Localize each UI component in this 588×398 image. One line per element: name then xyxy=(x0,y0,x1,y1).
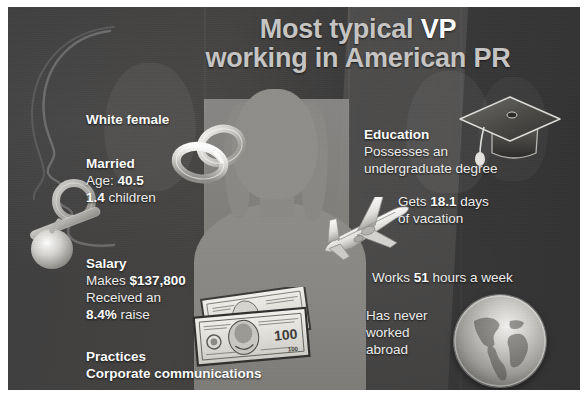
fact-practice-heading: Practices xyxy=(86,348,262,365)
fact-hours-value: 51 xyxy=(414,270,429,285)
fact-abroad-line-1: Has never xyxy=(366,307,428,324)
fact-salary-raise: 8.4% raise xyxy=(86,306,186,323)
wedding-rings-icon xyxy=(168,119,256,191)
fact-practice-area: Corporate communications xyxy=(86,365,262,382)
fact-family-children: 1.4 children xyxy=(86,189,156,206)
fact-vacation-value: 18.1 xyxy=(430,194,456,209)
fact-vacation-line-2: of vacation xyxy=(398,210,489,227)
fact-family-age-label: Age: xyxy=(86,173,118,188)
fact-demographic: White female xyxy=(86,111,169,128)
fact-hours-suffix: hours a week xyxy=(429,270,513,285)
poster-title-prefix: Most typical xyxy=(260,14,421,44)
fact-education-heading: Education xyxy=(364,126,498,143)
fact-family-age: Age: 40.5 xyxy=(86,172,156,189)
globe-continents xyxy=(454,295,546,387)
banknote-denomination: 100 xyxy=(273,326,298,344)
banknote-corner-mark: 100 xyxy=(288,346,299,353)
poster-title-highlight: VP xyxy=(421,14,457,44)
infographic-poster: Most typical VP working in American PR xyxy=(0,0,588,398)
fact-salary-raise-prefix: Received an xyxy=(86,289,186,306)
fact-abroad-line-2: worked xyxy=(366,324,428,341)
fact-hours: Works 51 hours a week xyxy=(372,269,513,286)
poster-title: Most typical VP working in American PR xyxy=(158,15,558,72)
fact-vacation-line-1: Gets 18.1 days xyxy=(398,193,489,210)
fact-family-age-value: 40.5 xyxy=(118,173,144,188)
fact-education: Education Possesses an undergraduate deg… xyxy=(364,126,498,177)
globe-icon xyxy=(454,295,546,387)
fact-hours-line: Works 51 hours a week xyxy=(372,269,513,286)
fact-family-children-value: 1.4 xyxy=(86,190,105,205)
fact-hours-prefix: Works xyxy=(372,270,414,285)
fact-demographic-heading: White female xyxy=(86,111,169,128)
fact-salary-raise-suffix: raise xyxy=(117,307,150,322)
poster-title-line-2: working in American PR xyxy=(158,44,558,73)
fact-education-line-2: undergraduate degree xyxy=(364,160,498,177)
fact-salary-makes-value: $137,800 xyxy=(130,273,186,288)
fact-salary-raise-value: 8.4% xyxy=(86,307,117,322)
fact-salary-makes: Makes $137,800 xyxy=(86,272,186,289)
fact-abroad-line-3: abroad xyxy=(366,341,428,358)
fact-salary: Salary Makes $137,800 Received an 8.4% r… xyxy=(86,255,186,323)
fact-vacation: Gets 18.1 days of vacation xyxy=(398,193,489,227)
fact-family: Married Age: 40.5 1.4 children xyxy=(86,155,156,206)
poster-title-line-1: Most typical VP xyxy=(158,15,558,44)
fact-vacation-suffix: days xyxy=(457,194,489,209)
fact-practice: Practices Corporate communications xyxy=(86,348,262,382)
fact-education-line-1: Possesses an xyxy=(364,143,498,160)
fact-abroad: Has never worked abroad xyxy=(366,307,428,358)
fact-family-children-label: children xyxy=(105,190,156,205)
fact-family-heading: Married xyxy=(86,155,156,172)
fact-salary-heading: Salary xyxy=(86,255,186,272)
fact-vacation-prefix: Gets xyxy=(398,194,430,209)
poster-board: Most typical VP working in American PR xyxy=(8,7,580,390)
fact-salary-makes-label: Makes xyxy=(86,273,130,288)
